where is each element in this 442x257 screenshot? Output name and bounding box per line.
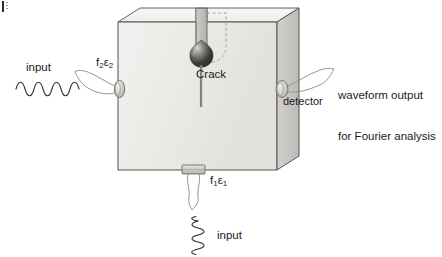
- transducer-left-leads: [75, 70, 115, 93]
- figure-canvas: input input Crack detector waveform outp…: [0, 0, 442, 257]
- input-label-left: input: [26, 61, 51, 75]
- input-waveform-left: [16, 82, 79, 96]
- waveform-output-line2: for Fourier analysis: [338, 130, 436, 144]
- transducer-left-parameter-label: f2ε2: [96, 56, 113, 70]
- input-waveform-bottom: [192, 221, 204, 255]
- transducer-bottom-parameter-label: f1ε1: [210, 174, 227, 188]
- block-top-face: [118, 8, 299, 22]
- transducer-bottom-leads: [187, 174, 199, 210]
- detector-label: detector: [283, 95, 323, 108]
- waveform-output-label: waveform output for Fourier analysis: [338, 62, 436, 171]
- transducer-bottom: [182, 165, 205, 174]
- waveform-output-line1: waveform output: [338, 89, 436, 103]
- epsilon1-subscript: 1: [223, 179, 227, 188]
- transducer-left: [114, 80, 124, 97]
- epsilon2-subscript: 2: [109, 61, 113, 70]
- crack-label: Crack: [196, 68, 226, 82]
- input-label-bottom: input: [217, 229, 242, 243]
- input-waveform-bottom-upper: [192, 217, 198, 222]
